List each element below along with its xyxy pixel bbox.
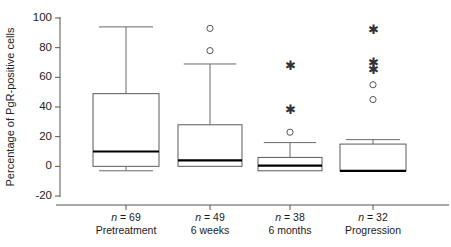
y-axis-ticks: -20020406080100 — [33, 11, 60, 201]
box-plot-group — [178, 25, 242, 166]
y-axis-title: Percentage of PgR-positive cells — [4, 27, 16, 186]
y-tick-label: 0 — [46, 159, 52, 171]
plot-area: -20020406080100 Percentage of PgR-positi… — [0, 0, 451, 247]
y-axis-title-text: Percentage of PgR-positive cells — [4, 27, 16, 186]
y-tick-label: 100 — [33, 11, 52, 23]
y-tick-label: 20 — [39, 130, 52, 142]
box-body — [93, 94, 159, 167]
outlier-extreme: ✱ — [285, 102, 296, 117]
outlier-mild — [370, 82, 376, 88]
caption-fragment — [0, 234, 451, 247]
box-plot-group — [93, 27, 159, 171]
outlier-mild — [207, 25, 213, 31]
outlier-mild — [370, 96, 376, 102]
outlier-mild — [207, 48, 213, 54]
box-body — [340, 144, 406, 171]
group-count: n = 32 — [318, 211, 428, 224]
outlier-extreme: ✱ — [368, 55, 379, 70]
boxplot-figure: -20020406080100 Percentage of PgR-positi… — [0, 0, 451, 247]
outlier-mild — [287, 129, 293, 135]
box-plot-group: ✱✱✱ — [340, 22, 406, 170]
box-plots: ✱✱✱✱✱ — [93, 22, 406, 170]
y-tick-label: 60 — [39, 70, 52, 82]
x-axis-ticks — [126, 205, 373, 210]
y-tick-label: -20 — [35, 189, 52, 201]
box-plot-group: ✱✱ — [258, 58, 322, 171]
y-tick-label: 80 — [39, 41, 52, 53]
y-tick-label: 40 — [39, 100, 52, 112]
outlier-extreme: ✱ — [368, 22, 379, 37]
outlier-extreme: ✱ — [285, 58, 296, 73]
box-body — [258, 157, 322, 170]
